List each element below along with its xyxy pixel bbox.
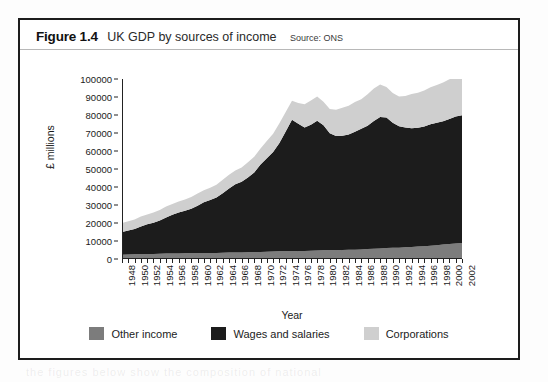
x-tick-label: 1986 (365, 265, 376, 286)
plot-axes-frame (122, 79, 462, 259)
plot-area (122, 79, 462, 259)
x-tick-label: 1982 (340, 265, 351, 286)
x-tick-label: 1950 (139, 265, 150, 286)
x-tick-label: 1984 (353, 265, 364, 286)
y-tick-label: 70000 (86, 128, 112, 139)
x-tick-mark (172, 259, 173, 263)
figure-container: Figure 1.4 UK GDP by sources of income S… (18, 18, 520, 360)
x-tick-mark (311, 259, 312, 263)
y-tick-label: 80000 (86, 110, 112, 121)
x-axis-tick-labels: 1948195019521954195619581960196219641966… (122, 265, 462, 307)
figure-title: UK GDP by sources of income (107, 30, 276, 44)
x-tick-mark (147, 259, 148, 263)
y-tick-label: 60000 (86, 146, 112, 157)
x-tick-label: 1968 (252, 265, 263, 286)
x-tick-mark (405, 259, 406, 263)
x-tick-label: 1964 (227, 265, 238, 286)
x-tick-mark (135, 259, 136, 263)
x-tick-mark (443, 259, 444, 263)
legend-item: Corporations (364, 327, 449, 340)
x-tick-mark (254, 259, 255, 263)
y-axis-tick-labels: 0100002000030000400005000060000700008000… (60, 79, 118, 259)
x-tick-mark (323, 259, 324, 263)
x-tick-label: 1996 (428, 265, 439, 286)
x-tick-mark (424, 259, 425, 263)
y-axis-title: £ millions (44, 125, 56, 169)
x-tick-mark (298, 259, 299, 263)
x-tick-mark (153, 259, 154, 263)
legend-label: Other income (111, 328, 177, 340)
x-tick-label: 1974 (290, 265, 301, 286)
x-tick-mark (204, 259, 205, 263)
x-tick-label: 1998 (441, 265, 452, 286)
x-tick-mark (374, 259, 375, 263)
y-tick-mark (114, 97, 118, 98)
x-tick-mark (399, 259, 400, 263)
x-tick-label: 1992 (403, 265, 414, 286)
legend-label: Wages and salaries (233, 328, 329, 340)
x-tick-label: 1990 (390, 265, 401, 286)
figure-source: Source: ONS (290, 33, 343, 43)
legend-swatch (364, 327, 379, 340)
figure-number: Figure 1.4 (36, 29, 98, 44)
x-tick-mark (198, 259, 199, 263)
x-tick-mark (273, 259, 274, 263)
x-tick-mark (141, 259, 142, 263)
x-tick-label: 2000 (453, 265, 464, 286)
x-tick-mark (349, 259, 350, 263)
x-tick-mark (216, 259, 217, 263)
x-tick-mark (166, 259, 167, 263)
x-tick-label: 1962 (214, 265, 225, 286)
chart-legend: Other incomeWages and salariesCorporatio… (20, 327, 518, 340)
x-tick-mark (210, 259, 211, 263)
x-tick-mark (292, 259, 293, 263)
x-tick-label: 1970 (265, 265, 276, 286)
page-bleed-text-top: the figures below show the composition o… (26, 366, 322, 378)
x-tick-mark (342, 259, 343, 263)
x-tick-label: 2002 (466, 265, 477, 286)
x-tick-label: 1966 (239, 265, 250, 286)
x-tick-mark (449, 259, 450, 263)
x-tick-mark (437, 259, 438, 263)
y-tick-mark (114, 205, 118, 206)
y-tick-mark (114, 151, 118, 152)
legend-label: Corporations (386, 328, 449, 340)
y-tick-label: 90000 (86, 92, 112, 103)
x-tick-mark (386, 259, 387, 263)
x-tick-mark (179, 259, 180, 263)
figure-header: Figure 1.4 UK GDP by sources of income S… (20, 20, 518, 50)
x-tick-mark (456, 259, 457, 263)
y-tick-mark (114, 223, 118, 224)
y-tick-label: 20000 (86, 218, 112, 229)
y-tick-mark (114, 241, 118, 242)
x-axis-title: Year (122, 309, 462, 321)
x-tick-mark (305, 259, 306, 263)
x-tick-mark (368, 259, 369, 263)
y-tick-label: 100000 (80, 74, 112, 85)
x-tick-mark (393, 259, 394, 263)
y-tick-mark (114, 187, 118, 188)
x-tick-label: 1956 (176, 265, 187, 286)
x-tick-mark (191, 259, 192, 263)
x-tick-mark (355, 259, 356, 263)
x-tick-mark (223, 259, 224, 263)
x-tick-label: 1948 (126, 265, 137, 286)
legend-swatch (211, 327, 226, 340)
x-tick-mark (279, 259, 280, 263)
x-tick-mark (122, 259, 123, 263)
x-tick-mark (229, 259, 230, 263)
x-tick-label: 1960 (202, 265, 213, 286)
y-tick-mark (114, 133, 118, 134)
chart-area: £ millions 01000020000300004000050000600… (20, 51, 518, 360)
x-tick-mark (330, 259, 331, 263)
y-tick-mark (114, 259, 118, 260)
x-tick-mark (412, 259, 413, 263)
y-tick-label: 40000 (86, 182, 112, 193)
legend-item: Wages and salaries (211, 327, 329, 340)
y-tick-label: 0 (107, 254, 112, 265)
x-tick-label: 1978 (315, 265, 326, 286)
x-tick-mark (160, 259, 161, 263)
x-tick-mark (235, 259, 236, 263)
x-tick-mark (431, 259, 432, 263)
y-tick-mark (114, 169, 118, 170)
